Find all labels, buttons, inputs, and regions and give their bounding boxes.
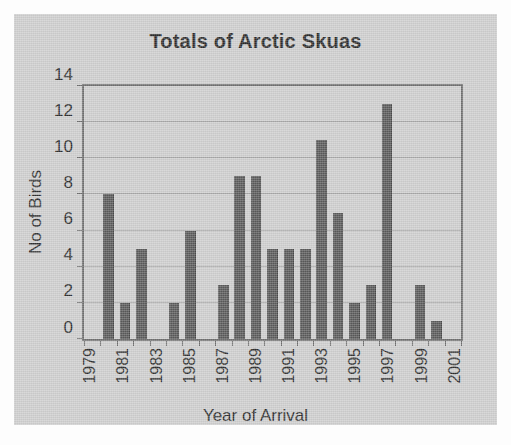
bar-cell [150,86,166,339]
bar [316,140,326,339]
x-axis-tick [166,339,167,346]
x-axis-tick-labels: 1979198119831985198719891991199319951997… [82,348,463,406]
x-axis-tick [412,339,413,346]
bar-cell [232,86,248,339]
bar-cell [395,86,411,339]
bar [415,285,425,339]
bar-cell [84,86,100,339]
x-axis-tick [297,339,298,346]
y-axis-tick [77,157,84,158]
bar [333,213,343,340]
x-axis-tick [313,339,314,346]
y-axis-tick-label: 12 [54,101,73,121]
bar [234,176,244,339]
x-axis-tick-label: 1999 [413,348,431,384]
x-axis-tick [150,339,151,346]
bar-series [84,86,461,339]
bar-cell [363,86,379,339]
bar-cell [428,86,444,339]
y-axis-tick [77,230,84,231]
x-axis-tick-label: 2001 [446,348,464,384]
x-axis-tick [232,339,233,346]
x-axis-tick-label: 1991 [280,348,298,384]
bar [300,249,310,339]
x-axis-tick [379,339,380,346]
x-axis-tick [248,339,249,346]
x-axis-tick [428,339,429,346]
x-axis-tick [281,339,282,346]
x-axis-tick-label: 1989 [247,348,265,384]
y-axis-tick-label: 10 [54,137,73,157]
bar [349,303,359,339]
bar-cell [412,86,428,339]
x-axis-tick-label: 1979 [81,348,99,384]
bar [382,104,392,339]
bar-cell [248,86,264,339]
y-axis-title: No of Birds [26,170,46,254]
x-axis-tick [264,339,265,346]
y-axis-tick-label: 4 [64,245,73,265]
x-axis-tick [363,339,364,346]
y-axis-tick-label: 14 [54,65,73,85]
x-axis-tick [117,339,118,346]
y-axis-tick [77,302,84,303]
bar-cell [199,86,215,339]
bar-cell [100,86,116,339]
bar-cell [281,86,297,339]
bar [218,285,228,339]
bar-cell [133,86,149,339]
x-axis-ticks [84,339,461,346]
x-axis-tick [395,339,396,346]
y-axis-tick-label: 0 [64,318,73,338]
bar-cell [264,86,280,339]
x-axis-tick-label: 1983 [148,348,166,384]
bar-cell [166,86,182,339]
x-axis-tick [84,339,85,346]
x-axis-tick [133,339,134,346]
y-axis-tick [77,338,84,339]
x-axis-tick-label: 1987 [214,348,232,384]
x-axis-tick [215,339,216,346]
bar [284,249,294,339]
x-axis-tick [199,339,200,346]
plot-area: 02468101214 [82,84,463,341]
bar-cell [117,86,133,339]
bar [267,249,277,339]
x-axis-tick-label: 1997 [379,348,397,384]
x-axis-tick [346,339,347,346]
y-axis-tick [77,266,84,267]
y-axis-tick-label: 6 [64,209,73,229]
x-axis-tick [461,339,462,346]
bar [185,231,195,339]
bar [366,285,376,339]
x-axis-tick-label: 1993 [313,348,331,384]
bar [251,176,261,339]
y-axis-tick-label: 2 [64,281,73,301]
x-axis-tick [182,339,183,346]
x-axis-tick [445,339,446,346]
x-axis-tick-label: 1985 [181,348,199,384]
bar-cell [215,86,231,339]
x-axis-tick [100,339,101,346]
bar-cell [313,86,329,339]
bar-cell [330,86,346,339]
chart-title: Totals of Arctic Skuas [14,30,497,53]
bar-cell [297,86,313,339]
x-axis-tick-label: 1995 [346,348,364,384]
bar [120,303,130,339]
chart-figure: Totals of Arctic Skuas No of Birds 02468… [14,14,497,425]
y-axis-tick [77,193,84,194]
bar [103,194,113,339]
bar-cell [445,86,461,339]
bar-cell [346,86,362,339]
x-axis-tick [330,339,331,346]
y-axis-tick [77,121,84,122]
y-axis-tick-label: 8 [64,173,73,193]
x-axis-title: Year of Arrival [14,406,497,426]
bar [169,303,179,339]
bar [431,321,441,339]
bar-cell [379,86,395,339]
y-axis-tick [77,85,84,86]
bar-cell [182,86,198,339]
bar [136,249,146,339]
